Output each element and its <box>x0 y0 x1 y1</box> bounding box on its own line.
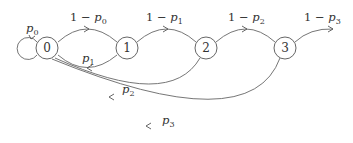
edge-0-0 <box>17 38 37 60</box>
svg-text:1: 1 <box>123 41 131 55</box>
svg-text:0: 0 <box>43 41 51 55</box>
edge-0-1 <box>58 29 117 42</box>
label-edge-0-1: 1 − p0 <box>70 10 107 26</box>
edge-2-0 <box>55 58 200 84</box>
markov-chain-diagram: 0 1 2 3 p0 1 − p0 1 − p1 1 − p2 1 − p3 p… <box>0 0 353 143</box>
svg-text:2: 2 <box>202 41 210 55</box>
label-edge-3-0: p3 <box>162 113 174 129</box>
edge-3-0-arrowhead <box>146 123 151 129</box>
state-node-2: 2 <box>195 37 217 59</box>
state-node-0: 0 <box>36 37 58 59</box>
label-edge-3-out: 1 − p3 <box>304 10 341 26</box>
label-edge-1-2: 1 − p1 <box>146 10 183 26</box>
edge-1-2 <box>137 29 196 42</box>
state-node-1: 1 <box>116 37 138 59</box>
edge-2-0-arrowhead <box>109 94 114 100</box>
label-edge-1-0: p1 <box>82 51 94 67</box>
label-edge-0-0: p0 <box>26 21 38 37</box>
state-node-3: 3 <box>274 37 296 59</box>
edge-2-3 <box>216 29 275 42</box>
svg-text:3: 3 <box>281 41 289 55</box>
label-edge-2-3: 1 − p2 <box>228 10 265 26</box>
label-edge-2-0: p2 <box>122 82 134 98</box>
edge-3-out <box>295 29 333 42</box>
